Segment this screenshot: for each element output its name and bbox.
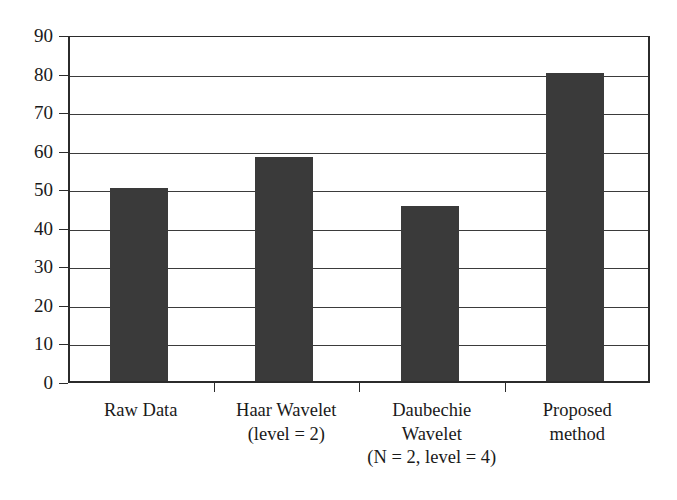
- y-tick-label: 80: [0, 65, 53, 84]
- y-tick-mark: [59, 383, 68, 384]
- y-tick-label: 0: [0, 373, 53, 392]
- y-tick-mark: [59, 190, 68, 191]
- x-tick-mark: [214, 383, 215, 392]
- y-tick-label: 90: [0, 26, 53, 45]
- x-tick-mark: [359, 383, 360, 392]
- bar: [546, 73, 604, 381]
- y-tick-label: 70: [0, 103, 53, 122]
- y-tick-label: 50: [0, 180, 53, 199]
- y-tick-mark: [59, 229, 68, 230]
- y-tick-mark: [59, 344, 68, 345]
- y-tick-mark: [59, 267, 68, 268]
- y-tick-label: 60: [0, 142, 53, 161]
- plot-area: [68, 36, 650, 383]
- x-axis-category-label-line: (N = 2, level = 4): [341, 446, 523, 470]
- bar-chart: 9080706050403020100 Raw DataHaar Wavelet…: [0, 0, 677, 500]
- y-tick-mark: [59, 306, 68, 307]
- bar: [110, 188, 168, 381]
- x-axis-category-label-line: Haar Wavelet: [236, 400, 336, 420]
- bar: [401, 206, 459, 381]
- y-tick-mark: [59, 36, 68, 37]
- x-axis-category-label-line: method: [487, 423, 669, 447]
- y-tick-label: 40: [0, 219, 53, 238]
- x-axis-category-label-line: Proposed: [543, 400, 612, 420]
- bar: [255, 157, 313, 381]
- y-tick-mark: [59, 152, 68, 153]
- y-tick-mark: [59, 113, 68, 114]
- y-tick-label: 30: [0, 257, 53, 276]
- y-tick-label: 10: [0, 334, 53, 353]
- x-axis-category-label-line: Raw Data: [104, 400, 177, 420]
- x-axis-category-label: Proposedmethod: [487, 399, 669, 446]
- x-tick-mark: [505, 383, 506, 392]
- y-tick-label: 20: [0, 296, 53, 315]
- x-axis-category-label-line: Daubechie: [392, 400, 471, 420]
- y-tick-mark: [59, 75, 68, 76]
